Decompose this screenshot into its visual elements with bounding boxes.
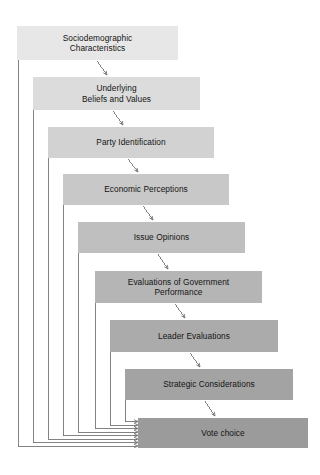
arrow-sociodemographic-to-beliefs xyxy=(97,61,107,75)
node-label-line1: Vote choice xyxy=(201,428,244,438)
node-gov-performance: Evaluations of GovernmentPerformance xyxy=(95,271,262,303)
node-label: Party Identification xyxy=(96,137,165,147)
node-label-line1: Sociodemographic xyxy=(63,33,133,43)
node-vote-choice: Vote choice xyxy=(138,418,308,448)
node-label-line2: Characteristics xyxy=(63,43,133,53)
arrow-issue-opinions-to-gov-performance xyxy=(158,254,168,269)
node-label: Issue Opinions xyxy=(134,232,190,242)
node-label: Vote choice xyxy=(201,428,244,438)
arrow-beliefs-to-party-id xyxy=(113,111,123,125)
node-strategic: Strategic Considerations xyxy=(125,369,293,400)
node-label: UnderlyingBeliefs and Values xyxy=(82,83,151,103)
node-label-line1: Economic Perceptions xyxy=(104,184,188,194)
node-leader-evaluations: Leader Evaluations xyxy=(110,320,278,352)
node-label-line1: Party Identification xyxy=(96,137,165,147)
node-economic: Economic Perceptions xyxy=(63,174,229,205)
node-label: Economic Perceptions xyxy=(104,184,188,194)
arrow-strategic-to-vote-choice xyxy=(205,401,215,416)
arrow-party-id-to-economic xyxy=(128,159,138,172)
node-sociodemographic: SociodemographicCharacteristics xyxy=(17,26,178,60)
node-label-line2: Beliefs and Values xyxy=(82,94,151,104)
node-label: SociodemographicCharacteristics xyxy=(63,33,133,53)
node-party-id: Party Identification xyxy=(48,127,214,158)
diagram-canvas: SociodemographicCharacteristicsUnderlyin… xyxy=(0,0,320,475)
node-label: Evaluations of GovernmentPerformance xyxy=(128,277,229,297)
node-label-line1: Leader Evaluations xyxy=(158,331,230,341)
arrow-economic-to-issue-opinions xyxy=(143,206,153,220)
node-issue-opinions: Issue Opinions xyxy=(78,222,245,253)
node-label-line2: Performance xyxy=(128,287,229,297)
node-label: Strategic Considerations xyxy=(163,379,255,389)
arrow-leader-evaluations-to-strategic xyxy=(190,353,200,367)
node-label-line1: Evaluations of Government xyxy=(128,277,229,287)
node-label-line1: Issue Opinions xyxy=(134,232,190,242)
direct-arrow-group xyxy=(18,60,138,448)
node-beliefs: UnderlyingBeliefs and Values xyxy=(33,77,200,110)
node-label: Leader Evaluations xyxy=(158,331,230,341)
arrow-gov-performance-to-leader-evaluations xyxy=(175,304,185,318)
node-label-line1: Strategic Considerations xyxy=(163,379,255,389)
node-label-line1: Underlying xyxy=(82,83,151,93)
